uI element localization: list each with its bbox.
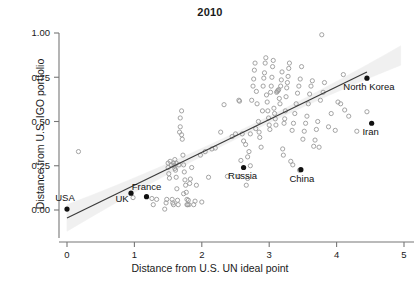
data-point [131,196,135,200]
data-point [277,96,281,100]
data-point [167,176,171,180]
point-label-russia: Russia [228,170,258,181]
data-point [274,123,278,127]
data-point [175,187,179,191]
x-tick-label: 2 [199,249,204,260]
data-point [316,119,320,123]
data-point [247,149,251,153]
point-label-north-korea: North Korea [343,81,395,92]
data-point [188,181,192,185]
data-point [176,203,180,207]
point-label-iran: Iran [362,126,378,137]
data-point [182,170,186,174]
data-point [302,129,306,133]
highlight-point-france [144,194,149,199]
data-point [183,178,187,182]
data-point [333,128,337,132]
data-point [267,123,271,127]
data-point [178,116,182,120]
data-point [312,144,316,148]
x-tick-label: 5 [401,249,406,260]
data-point [175,198,179,202]
data-point [285,80,289,84]
regression-line [67,72,367,218]
data-point [278,102,282,106]
data-point [297,84,301,88]
data-point [244,142,248,146]
data-point [285,86,289,90]
data-point [248,132,252,136]
data-point [264,56,268,60]
data-point [174,175,178,179]
data-point [287,66,291,70]
data-point [314,127,318,131]
data-point [281,147,285,151]
data-point [254,89,258,93]
data-point [341,72,345,76]
data-point [258,135,262,139]
data-point [248,164,252,168]
data-point [291,121,295,125]
data-point [287,61,291,65]
highlight-point-iran [369,121,374,126]
data-point [279,84,283,88]
x-tick-label: 0 [64,249,69,260]
x-axis-title: Distance from U.S. UN ideal point [0,262,420,274]
scatter-plot-figure: 2010 0.000.250.500.751.00012345USAUKFran… [0,0,420,283]
data-point [279,78,283,82]
data-point [163,207,167,211]
data-point [298,77,302,81]
data-point [347,114,351,118]
point-label-usa: USA [55,192,75,203]
data-point [264,93,268,97]
data-point [260,109,264,113]
data-point [270,75,274,79]
data-point [194,183,198,187]
data-point [206,175,210,179]
data-point [200,200,204,204]
highlight-point-usa [64,207,69,212]
data-point [291,163,295,167]
data-point [290,128,294,132]
data-point [280,70,284,74]
data-point [268,90,272,94]
data-point [343,108,347,112]
data-point [190,165,194,169]
data-point [222,103,226,107]
data-point [286,74,290,78]
data-point [301,137,305,141]
data-point [329,111,333,115]
data-point [271,58,275,62]
data-point [257,130,261,134]
data-point [150,196,154,200]
data-point [186,198,190,202]
data-point [178,125,182,129]
data-point [310,79,314,83]
data-point [263,61,267,65]
data-point [322,80,326,84]
data-point [268,127,272,131]
data-point [219,130,223,134]
data-point [299,65,303,69]
data-point [255,102,259,106]
data-point [261,84,265,88]
data-point [252,77,256,81]
data-point [317,145,321,149]
data-point [270,65,274,69]
x-tick-label: 1 [132,249,137,260]
highlight-point-china [298,167,303,172]
data-point [265,100,269,104]
data-point [281,153,285,157]
data-point [283,117,287,121]
point-label-china: China [289,173,315,184]
data-point [320,33,324,37]
data-point [284,95,288,99]
plot-canvas: 0.000.250.500.751.00012345USAUKFranceRus… [0,0,420,283]
x-tick-label: 3 [267,249,272,260]
data-point [252,68,256,72]
data-point [244,183,248,187]
data-point [355,129,359,133]
data-point [76,149,80,153]
x-tick-label: 4 [334,249,339,260]
y-axis-title: Distance from U.S. IGO portfolio [34,24,46,244]
